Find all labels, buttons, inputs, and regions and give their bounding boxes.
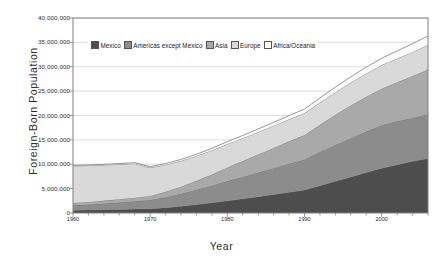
legend-item-africa-oceania: Africa/Oceania [264,41,316,49]
legend-label: Africa/Oceania [273,42,315,49]
legend-label: Europe [240,42,261,49]
y-tick-label: 35,000,000 [8,38,70,45]
y-tick-label: 40,000,000 [8,14,70,21]
chart-legend: MexicoAmericas except MexicoAsiaEuropeAf… [88,38,318,52]
x-tick-label: 1960 [67,216,79,222]
legend-label: Mexico [101,42,121,49]
y-tick-label: 20,000,000 [8,112,70,119]
legend-swatch-icon [91,41,99,49]
legend-swatch-icon [231,41,239,49]
legend-item-europe: Europe [231,41,261,49]
x-tick-label: 1980 [221,216,233,222]
legend-item-americas-except-mexico: Americas except Mexico [124,41,203,49]
legend-swatch-icon [124,41,132,49]
legend-item-asia: Asia [206,41,228,49]
y-tick-label: 25,000,000 [8,87,70,94]
y-tick-label: 15,000,000 [8,136,70,143]
x-tick-label: 1970 [144,216,156,222]
legend-swatch-icon [206,41,214,49]
y-axis-tick-labels: 05,000,00010,000,00015,000,00020,000,000… [6,0,70,260]
legend-swatch-icon [264,41,272,49]
x-tick-label: 2000 [375,216,387,222]
y-tick-label: 0 [8,209,70,216]
y-tick-label: 30,000,000 [8,63,70,70]
y-tick-label: 10,000,000 [8,160,70,167]
y-tick-label: 5,000,000 [8,185,70,192]
x-tick-label: 1990 [298,216,310,222]
legend-label: Asia [215,42,227,49]
stacked-area-chart: Foreign-Born Population Year 05,000,0001… [0,0,443,260]
legend-item-mexico: Mexico [91,41,121,49]
legend-label: Americas except Mexico [133,42,202,49]
